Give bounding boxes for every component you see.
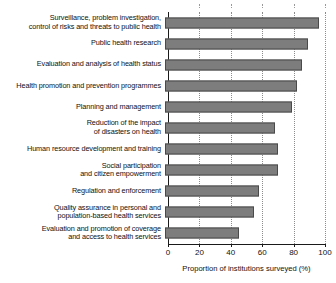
category-label: Health promotion and prevention programm… [0,82,165,91]
x-tick-label: 40 [226,248,235,258]
top-tick-mark [262,4,264,8]
bar-row: Human resource development and training [0,139,330,160]
category-label: Reduction of the impact of disasters on … [0,119,165,136]
bar [165,38,308,49]
bar [165,122,275,133]
bar-track [165,12,330,33]
bar-row: Evaluation and analysis of health status [0,54,330,75]
x-tick [294,244,295,247]
x-tick-label: 20 [195,248,204,258]
x-axis-tick-labels: 020406080100 [168,248,336,260]
bar-row: Planning and management [0,96,330,117]
bar [165,186,259,197]
bar-track [165,54,330,75]
x-axis-title: Proportion of institutions surveyed (%) [168,264,325,274]
category-label: Regulation and enforcement [0,187,165,196]
bar-track [165,117,330,138]
bar-track [165,202,330,223]
bar [165,101,292,112]
bar-row: Quality assurance in personal and popula… [0,202,330,223]
category-label: Public health research [0,39,165,48]
category-label: Surveillance, problem investigation, con… [0,14,165,31]
x-tick [325,244,326,247]
top-tick-mark [325,4,327,8]
x-tick-label: 60 [258,248,267,258]
x-tick [262,244,263,247]
bar-track [165,223,330,244]
bar-track [165,160,330,181]
category-label: Quality assurance in personal and popula… [0,204,165,221]
x-tick-label: 80 [289,248,298,258]
bar [165,59,302,70]
bar-track [165,96,330,117]
top-tick-mark [294,4,296,8]
bar-row: Regulation and enforcement [0,181,330,202]
bar-row: Reduction of the impact of disasters on … [0,117,330,138]
bar-track [165,75,330,96]
bar-row: Public health research [0,33,330,54]
bar [165,80,297,91]
bar-track [165,181,330,202]
x-tick [168,244,169,247]
category-label: Social participation and citizen empower… [0,162,165,179]
category-label: Evaluation and promotion of coverage and… [0,225,165,242]
top-tick-mark [231,4,233,8]
category-label: Human resource development and training [0,145,165,154]
bar [165,165,278,176]
top-tick-marks [168,4,325,9]
bar-row: Surveillance, problem investigation, con… [0,12,330,33]
bar-track [165,139,330,160]
bar-rows: Surveillance, problem investigation, con… [0,12,330,244]
x-tick-label: 100 [318,248,331,258]
bar [165,228,239,239]
x-tick [231,244,232,247]
category-label: Planning and management [0,103,165,112]
bar-row: Social participation and citizen empower… [0,160,330,181]
bar [165,207,254,218]
bar-row: Evaluation and promotion of coverage and… [0,223,330,244]
category-label: Evaluation and analysis of health status [0,60,165,69]
x-tick [199,244,200,247]
bar [165,17,319,28]
bar-track [165,33,330,54]
bar [165,144,278,155]
top-tick-mark [199,4,201,8]
bar-row: Health promotion and prevention programm… [0,75,330,96]
x-tick-label: 0 [166,248,170,258]
